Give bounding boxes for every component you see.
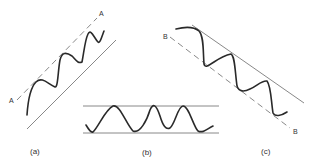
label-b-end: B: [293, 128, 298, 135]
panel-c-solid-line: [192, 25, 304, 103]
panel-a-solid-line: [27, 40, 116, 129]
label-a-start: A: [9, 97, 14, 104]
panel-a: A A (a): [9, 10, 116, 156]
caption-b: (b): [142, 148, 152, 157]
panel-c-wave: [176, 27, 287, 115]
label-b-start: B: [163, 33, 168, 40]
diagram-canvas: A A (a) (b) B B (c): [0, 0, 312, 166]
panel-b-wave: [86, 106, 213, 133]
label-a-end: A: [99, 10, 104, 17]
caption-a: (a): [30, 147, 40, 156]
panel-b: (b): [83, 106, 219, 157]
panel-c-dashed-line: [170, 37, 290, 128]
caption-c: (c): [261, 147, 271, 156]
panel-a-wave: [27, 31, 104, 115]
panel-c: B B (c): [163, 25, 304, 156]
panel-a-dashed-line: [17, 18, 97, 100]
